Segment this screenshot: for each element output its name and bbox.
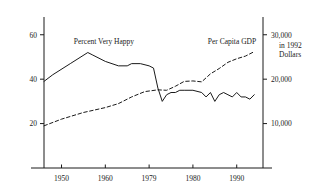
bottom-tick-label: 1979 bbox=[142, 174, 157, 183]
series-label-per-capita-gdp: Per Capita GDP bbox=[208, 37, 256, 46]
right-tick-label: 10,000 bbox=[271, 119, 292, 128]
right-tick-label: 30,000 bbox=[271, 31, 292, 40]
right-axis-caption-line2: Dollars bbox=[279, 50, 301, 59]
series-line-percent-very-happy bbox=[44, 53, 254, 102]
bottom-axis-ticks: 19501960197919801990 bbox=[54, 165, 244, 184]
series-label-percent-very-happy: Percent Very Happy bbox=[74, 37, 135, 46]
right-axis-caption-line1: in 1992 bbox=[279, 41, 302, 50]
series-line-per-capita-gdp bbox=[44, 52, 254, 126]
bottom-tick-label: 1990 bbox=[229, 174, 244, 183]
left-axis-ticks: 204060 bbox=[30, 31, 45, 129]
chart-figure: 204060 10,00020,00030,000 19501960197919… bbox=[0, 0, 320, 195]
right-tick-label: 20,000 bbox=[271, 75, 292, 84]
bottom-tick-label: 1980 bbox=[185, 174, 200, 183]
left-tick-label: 20 bbox=[30, 119, 38, 128]
happiness-gdp-line-chart: 204060 10,00020,00030,000 19501960197919… bbox=[0, 0, 320, 195]
bottom-tick-label: 1950 bbox=[54, 174, 69, 183]
left-tick-label: 40 bbox=[30, 75, 38, 84]
left-tick-label: 60 bbox=[30, 31, 38, 40]
bottom-tick-label: 1960 bbox=[98, 174, 113, 183]
